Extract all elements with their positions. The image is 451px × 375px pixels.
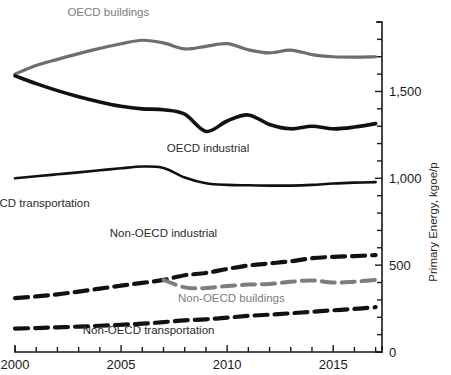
x-axis-line <box>15 346 382 352</box>
series-label-non-oecd-buildings: Non-OECD buildings <box>178 292 285 304</box>
series-line-oecd-industrial <box>15 76 376 132</box>
x-axis-tick-label: 2005 <box>107 357 136 372</box>
y-axis-title: Primary Energy, kgoe/p <box>427 162 439 281</box>
axis-title-layer: Primary Energy, kgoe/p <box>427 162 439 281</box>
line-chart: 05001,0001,5002000200520102015 OECD buil… <box>0 0 451 375</box>
series-label-oecd-buildings: OECD buildings <box>67 6 149 18</box>
chart-container: 05001,0001,5002000200520102015 OECD buil… <box>0 0 451 375</box>
y-axis-tick-label: 500 <box>389 258 411 273</box>
series-layer <box>15 40 376 328</box>
series-line-non-oecd-buildings <box>164 280 376 288</box>
y-axis-tick-label: 0 <box>389 345 396 360</box>
series-line-oecd-transportation <box>15 166 376 185</box>
series-label-non-oecd-transportation: Non-OECD transportation <box>83 324 215 336</box>
series-line-oecd-buildings <box>15 40 376 74</box>
x-axis-tick-label: 2015 <box>319 357 348 372</box>
x-axis-tick-label: 2000 <box>1 357 30 372</box>
y-axis-tick-label: 1,000 <box>389 171 422 186</box>
y-axis-line <box>376 22 382 352</box>
x-axis-tick-label: 2010 <box>213 357 242 372</box>
y-axis-tick-label: 1,500 <box>389 84 422 99</box>
series-label-oecd-transportation: OECD transportation <box>0 197 90 209</box>
series-label-oecd-industrial: OECD industrial <box>167 142 249 154</box>
series-label-non-oecd-industrial: Non-OECD industrial <box>110 227 217 239</box>
